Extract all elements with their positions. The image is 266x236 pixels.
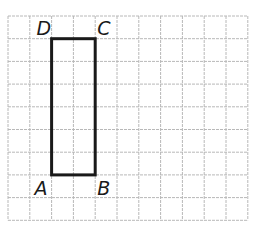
vertex-label-d: D (37, 17, 52, 39)
vertex-label-c: C (97, 17, 111, 39)
grid-diagram: D C A B (0, 0, 266, 236)
vertex-label-a: A (33, 177, 48, 199)
vertex-label-b: B (97, 177, 110, 199)
